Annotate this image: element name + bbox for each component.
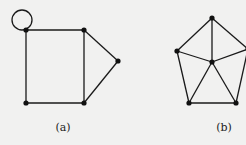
edge-b3-b4 [189,62,212,103]
edge-b1-b2 [177,18,212,51]
vertex-b2 [174,48,179,53]
graph-a: (a) [12,10,121,134]
vertex-b5 [233,100,238,105]
graph-a-nodes [23,27,120,105]
graph-b-label: (b) [216,121,232,134]
graph-b: (b) [174,15,246,134]
edge-b2-b4 [177,51,189,103]
vertex-b4 [186,100,191,105]
vertex-b1 [209,15,214,20]
vertex-a4 [81,100,86,105]
edge-b5-b6 [236,49,246,103]
graph-b-nodes [174,15,246,105]
self-loop-a1 [12,10,32,30]
graph-figure: (a) (b) [0,0,246,145]
edge-b3-b5 [212,62,236,103]
edge-b2-b3 [177,51,212,62]
vertex-a2 [81,27,86,32]
graph-a-label: (a) [55,121,70,134]
edge-b1-b6 [212,18,246,49]
edge-a3-a4 [84,61,118,103]
graph-a-edges [26,30,118,103]
vertex-a5 [23,100,28,105]
vertex-b3 [209,59,214,64]
vertex-a3 [115,58,120,63]
graph-a-loops [12,10,32,30]
edge-b3-b6 [212,49,246,62]
vertex-a1 [23,27,28,32]
edge-a2-a3 [84,30,118,61]
